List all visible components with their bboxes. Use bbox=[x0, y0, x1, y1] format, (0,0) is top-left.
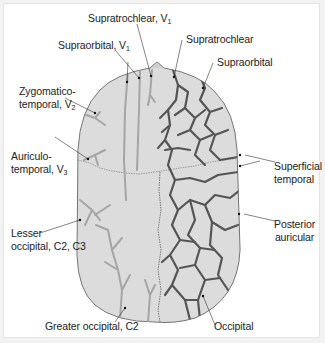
label-greater-occipital-nerve: Greater occipital, C2 bbox=[45, 320, 139, 333]
label-auriculotemporal-nerve: Auriculo- temporal, V3 bbox=[11, 150, 67, 179]
label-supratrochlear-nerve: Supratrochlear, V1 bbox=[88, 12, 171, 28]
label-lesser-occipital-nerve: Lesser occipital, C2, C3 bbox=[11, 227, 86, 253]
label-supraorbital-nerve: Supraorbital, V1 bbox=[58, 39, 130, 55]
label-superficial-temporal-artery: Superficial temporal bbox=[274, 160, 322, 186]
label-zygomaticotemporal-nerve: Zygomatico- temporal, V2 bbox=[19, 85, 76, 114]
label-supraorbital-artery: Supraorbital bbox=[217, 56, 272, 69]
label-occipital-artery: Occipital bbox=[214, 320, 253, 333]
label-posterior-auricular-artery: Posterior auricular bbox=[274, 218, 315, 244]
label-supratrochlear-artery: Supratrochlear bbox=[186, 33, 253, 46]
